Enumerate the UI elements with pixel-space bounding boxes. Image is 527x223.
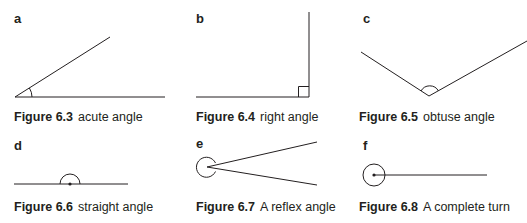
- straight-angle-figure: [14, 174, 128, 186]
- figure-description: right angle: [260, 110, 318, 124]
- acute-angle-figure: [15, 37, 165, 97]
- right-angle-figure: [196, 12, 309, 97]
- caption-figure-6-7: Figure 6.7A reflex angle: [196, 201, 336, 214]
- figure-description: straight angle: [78, 200, 153, 214]
- caption-figure-6-6: Figure 6.6straight angle: [14, 201, 153, 214]
- obtuse-angle-figure: [361, 41, 527, 96]
- figure-number: Figure 6.6: [14, 200, 73, 214]
- complete-turn-figure: [363, 164, 487, 186]
- caption-figure-6-4: Figure 6.4right angle: [196, 111, 318, 124]
- caption-figure-6-5: Figure 6.5obtuse angle: [359, 111, 495, 124]
- figure-description: acute angle: [78, 110, 143, 124]
- figure-number: Figure 6.7: [196, 200, 255, 214]
- figure-number: Figure 6.5: [359, 110, 418, 124]
- caption-figure-6-3: Figure 6.3acute angle: [14, 111, 143, 124]
- figure-description: A reflex angle: [260, 200, 336, 214]
- figure-description: obtuse angle: [423, 110, 495, 124]
- reflex-angle-figure: [196, 142, 317, 185]
- caption-figure-6-8: Figure 6.8A complete turn: [359, 201, 510, 214]
- panel-label-a: a: [14, 12, 21, 25]
- figure-description: A complete turn: [423, 200, 510, 214]
- figure-number: Figure 6.8: [359, 200, 418, 214]
- figure-number: Figure 6.4: [196, 110, 255, 124]
- panel-label-d: d: [14, 139, 22, 152]
- panel-label-c: c: [363, 12, 370, 25]
- panel-label-b: b: [196, 12, 204, 25]
- panel-label-f: f: [363, 139, 367, 152]
- figure-number: Figure 6.3: [14, 110, 73, 124]
- panel-label-e: e: [196, 137, 203, 150]
